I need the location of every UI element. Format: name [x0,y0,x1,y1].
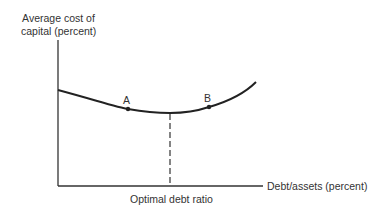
point-a-label: A [123,94,130,107]
point-b-label: B [204,92,211,105]
y-axis-label-line1: Average cost of [21,12,96,25]
point-b-marker [207,105,211,109]
x-axis-label: Debt/assets (percent) [267,180,367,193]
y-axis-label-line2: capital (percent) [21,25,96,38]
optimal-debt-ratio-label: Optimal debt ratio [130,193,213,206]
cost-curve [58,82,256,113]
point-a-marker [126,107,130,111]
y-axis-label: Average cost of capital (percent) [21,12,96,38]
